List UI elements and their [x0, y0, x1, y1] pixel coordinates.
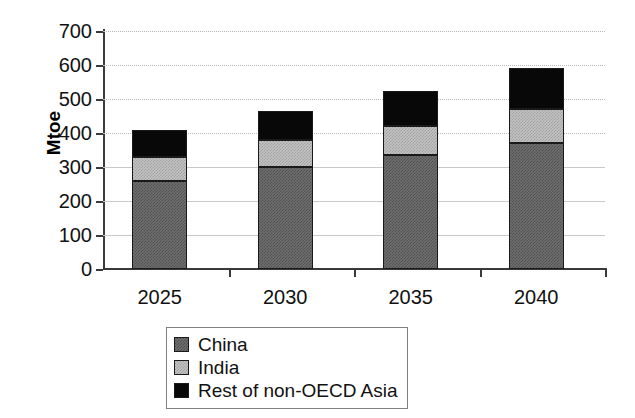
stacked-bar-chart: Mtoe 0100200300400500600700 202520302035… [0, 0, 635, 418]
y-tick-label-300: 300 [59, 157, 92, 177]
india-swatch-icon [174, 360, 189, 375]
bar-segment-rest-of-non-oecd-asia-2030[interactable] [258, 111, 313, 140]
legend-label-india: India [198, 358, 239, 377]
plot-area: 0100200300400500600700 [103, 31, 605, 269]
bar-segment-china-2030[interactable] [258, 167, 313, 269]
legend-item-india[interactable]: India [174, 356, 398, 379]
x-tick-2 [354, 269, 356, 277]
y-tick-label-200: 200 [59, 191, 92, 211]
bar-segment-rest-of-non-oecd-asia-2035[interactable] [383, 91, 438, 127]
legend-item-rest-of-non-oecd-asia[interactable]: Rest of non-OECD Asia [174, 379, 398, 402]
y-tick-200 [96, 201, 103, 203]
bar-segment-india-2025[interactable] [132, 157, 187, 181]
legend-label-china: China [198, 335, 248, 354]
bar-segment-india-2040[interactable] [509, 109, 564, 143]
y-tick-label-0: 0 [81, 259, 92, 279]
y-tick-label-700: 700 [59, 21, 92, 41]
x-tick-label-2025: 2025 [138, 286, 183, 308]
y-tick-300 [96, 167, 103, 169]
y-tick-label-600: 600 [59, 55, 92, 75]
bar-2040[interactable] [509, 68, 564, 269]
china-swatch-icon [174, 337, 189, 352]
y-tick-400 [96, 133, 103, 135]
bar-segment-china-2035[interactable] [383, 155, 438, 269]
y-tick-label-400: 400 [59, 123, 92, 143]
y-tick-600 [96, 65, 103, 67]
y-tick-500 [96, 99, 103, 101]
bar-segment-china-2025[interactable] [132, 181, 187, 269]
bar-segment-rest-of-non-oecd-asia-2040[interactable] [509, 68, 564, 109]
bar-segment-china-2040[interactable] [509, 143, 564, 269]
bar-segment-rest-of-non-oecd-asia-2025[interactable] [132, 130, 187, 157]
y-tick-label-500: 500 [59, 89, 92, 109]
y-tick-0 [96, 269, 103, 271]
y-tick-700 [96, 31, 103, 33]
bar-segment-india-2035[interactable] [383, 126, 438, 155]
y-tick-100 [96, 235, 103, 237]
x-tick-label-2030: 2030 [263, 286, 308, 308]
x-tick-label-2035: 2035 [389, 286, 434, 308]
bar-2025[interactable] [132, 130, 187, 269]
bar-2030[interactable] [258, 111, 313, 269]
gridline-700 [103, 31, 605, 32]
gridline-600 [103, 65, 605, 66]
rest-swatch-icon [174, 383, 189, 398]
x-tick-1 [229, 269, 231, 277]
x-tick-4 [605, 269, 607, 277]
legend-label-rest-of-non-oecd-asia: Rest of non-OECD Asia [198, 381, 398, 400]
x-tick-label-2040: 2040 [514, 286, 559, 308]
legend-item-china[interactable]: China [174, 333, 398, 356]
bar-segment-india-2030[interactable] [258, 140, 313, 167]
chart-legend: China India Rest of non-OECD Asia [166, 327, 408, 409]
y-tick-label-100: 100 [59, 225, 92, 245]
bar-2035[interactable] [383, 91, 438, 270]
x-tick-3 [480, 269, 482, 277]
